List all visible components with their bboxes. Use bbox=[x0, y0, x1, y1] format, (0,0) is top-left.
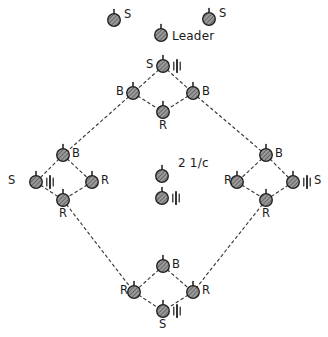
bud-node bbox=[157, 102, 170, 119]
bud-node bbox=[156, 188, 169, 205]
node-label-s-top-right: S bbox=[219, 8, 227, 20]
tick-marker-icon bbox=[174, 305, 180, 317]
tick-marker-icon bbox=[174, 60, 180, 72]
tick-marker-icon bbox=[47, 176, 53, 188]
bud-circle bbox=[128, 286, 141, 299]
bud-node bbox=[57, 145, 70, 162]
legend-note-label: 2 1/c bbox=[178, 157, 209, 169]
bud-circle bbox=[287, 176, 300, 189]
node-label-left-r-bottom: R bbox=[59, 208, 67, 220]
node-label-bot-r-right: R bbox=[202, 285, 210, 297]
node-label-left-r-right: R bbox=[101, 175, 109, 187]
bud-node bbox=[128, 282, 141, 299]
bud-circle bbox=[157, 60, 170, 73]
node-label-right-s: S bbox=[314, 175, 322, 187]
node-label-right-r-left: R bbox=[224, 175, 232, 187]
diagram-canvas: SSLeaderSBBRBSRRBRSRBRRS 2 1/c bbox=[0, 0, 328, 337]
bud-circle bbox=[187, 286, 200, 299]
bud-node bbox=[287, 172, 300, 189]
bud-circle bbox=[157, 260, 170, 273]
bud-circle bbox=[108, 14, 121, 27]
node-label-bot-r-left: R bbox=[120, 285, 128, 297]
node-label-right-r-bottom: R bbox=[262, 208, 270, 220]
bud-node bbox=[30, 172, 43, 189]
bud-node bbox=[187, 83, 200, 100]
node-label-leader: Leader bbox=[172, 30, 214, 42]
bud-node bbox=[203, 9, 216, 26]
node-label-s-top-left: S bbox=[124, 9, 132, 21]
bud-circle bbox=[156, 192, 169, 205]
node-label-left-s: S bbox=[8, 175, 16, 187]
bud-node bbox=[231, 172, 244, 189]
tick-marker-icon bbox=[304, 176, 310, 188]
node-label-top-b-left: B bbox=[116, 86, 124, 98]
bud-node bbox=[157, 56, 170, 73]
bud-circle bbox=[57, 194, 70, 207]
bud-circle bbox=[155, 29, 168, 42]
tick-marker-icon bbox=[173, 192, 179, 204]
node-label-top-s: S bbox=[146, 59, 154, 71]
node-label-right-b: B bbox=[275, 148, 283, 160]
node-label-top-r: R bbox=[159, 120, 167, 132]
bud-node bbox=[155, 25, 168, 42]
bud-circle bbox=[260, 194, 273, 207]
diagram-svg bbox=[0, 0, 328, 337]
bud-node bbox=[157, 256, 170, 273]
bud-circle bbox=[231, 176, 244, 189]
bud-node bbox=[108, 10, 121, 27]
node-label-bot-b: B bbox=[172, 259, 180, 271]
connector-line bbox=[193, 200, 266, 292]
connector-line bbox=[63, 200, 134, 292]
connector-line bbox=[193, 93, 266, 155]
bud-circle bbox=[57, 149, 70, 162]
bud-circle bbox=[157, 106, 170, 119]
node-label-left-b: B bbox=[72, 148, 80, 160]
bud-node bbox=[157, 301, 170, 318]
bud-circle bbox=[203, 13, 216, 26]
bud-circle bbox=[260, 149, 273, 162]
bud-node bbox=[260, 190, 273, 207]
bud-circle bbox=[127, 87, 140, 100]
node-label-top-b-right: B bbox=[202, 86, 210, 98]
bud-node bbox=[187, 282, 200, 299]
bud-circle bbox=[187, 87, 200, 100]
bud-circle bbox=[157, 305, 170, 318]
bud-circle bbox=[156, 170, 169, 183]
bud-node bbox=[57, 190, 70, 207]
bud-node bbox=[260, 145, 273, 162]
edge-layer bbox=[36, 66, 293, 311]
node-label-bot-s: S bbox=[159, 319, 167, 331]
bud-circle bbox=[86, 176, 99, 189]
bud-node bbox=[156, 166, 169, 183]
bud-node bbox=[127, 83, 140, 100]
bud-node bbox=[86, 172, 99, 189]
bud-circle bbox=[30, 176, 43, 189]
